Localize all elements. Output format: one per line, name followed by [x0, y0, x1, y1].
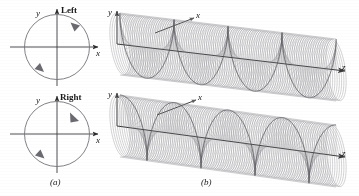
y-axis-label-bottom-helix: y — [108, 89, 112, 99]
figure-root: y Left x y Right x y x z y x z (a) (b) — [0, 0, 359, 196]
y-axis-label-right-circle: y — [36, 95, 40, 105]
y-axis-label-top-helix: y — [108, 7, 112, 17]
handedness-label-right: Right — [60, 92, 82, 102]
x-axis-label-top-helix: x — [196, 10, 200, 20]
x-axis-label-bottom-helix: x — [198, 92, 202, 102]
x-axis-label-left-circle: x — [96, 48, 100, 58]
handedness-label-left: Left — [61, 5, 77, 15]
x-axis-label-right-circle: x — [96, 135, 100, 145]
y-axis-label-left-circle: y — [36, 8, 40, 18]
polarization-figure-svg — [0, 0, 359, 196]
caption-a: (a) — [50, 177, 61, 187]
z-axis-label-bottom-helix: z — [342, 148, 346, 158]
caption-b: (b) — [201, 177, 212, 187]
z-axis-label-top-helix: z — [342, 62, 346, 72]
